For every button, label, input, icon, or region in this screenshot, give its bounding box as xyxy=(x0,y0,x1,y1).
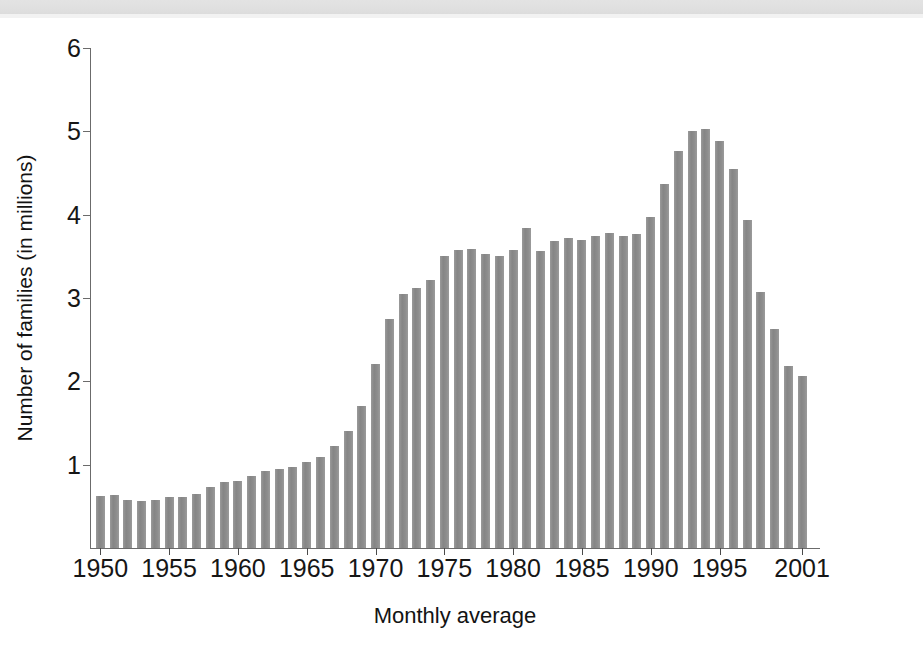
x-tick-label-1955: 1955 xyxy=(141,556,197,581)
bar-1982 xyxy=(536,251,545,549)
bar-1986 xyxy=(591,236,600,549)
bar-1968 xyxy=(344,431,353,549)
bar-1979 xyxy=(495,256,504,548)
bar-1973 xyxy=(412,288,421,548)
y-tick-mark xyxy=(83,465,90,466)
bar-1995 xyxy=(715,141,724,548)
x-tick-label-1980: 1980 xyxy=(485,556,541,581)
bar-1997 xyxy=(743,220,752,548)
y-axis-title: Number of families (in millions) xyxy=(13,154,37,441)
bar-1976 xyxy=(454,250,463,548)
y-tick-mark xyxy=(83,381,90,382)
x-tick-label-1950: 1950 xyxy=(73,556,129,581)
bar-1971 xyxy=(385,319,394,548)
bar-1998 xyxy=(756,292,765,548)
y-tick-label: 1 xyxy=(67,452,81,477)
bar-1990 xyxy=(646,217,655,548)
y-tick-mark xyxy=(83,215,90,216)
y-tick-label: 6 xyxy=(67,36,81,61)
bar-1994 xyxy=(701,129,710,548)
bar-1996 xyxy=(729,169,738,548)
bar-1972 xyxy=(399,294,408,548)
y-tick-label: 2 xyxy=(67,369,81,394)
bar-1950 xyxy=(96,496,105,549)
bar-1975 xyxy=(440,256,449,548)
x-tick-label-1965: 1965 xyxy=(279,556,335,581)
bar-1992 xyxy=(674,151,683,549)
bar-1959 xyxy=(220,482,229,548)
y-tick-label: 3 xyxy=(67,286,81,311)
y-tick-mark xyxy=(83,298,90,299)
bar-1981 xyxy=(522,228,531,548)
x-axis-title: Monthly average xyxy=(90,603,820,629)
bar-1989 xyxy=(632,234,641,548)
bar-1956 xyxy=(178,497,187,548)
x-tick-label-1985: 1985 xyxy=(554,556,610,581)
bar-1987 xyxy=(605,233,614,548)
bar-1985 xyxy=(577,240,586,548)
bar-2000 xyxy=(784,366,793,549)
x-axis-line xyxy=(90,548,820,549)
bar-1999 xyxy=(770,329,779,548)
bar-1967 xyxy=(330,446,339,548)
x-tick-label-1990: 1990 xyxy=(623,556,679,581)
bar-1984 xyxy=(564,238,573,548)
bar-1965 xyxy=(302,462,311,548)
bar-1974 xyxy=(426,280,435,548)
bar-1953 xyxy=(137,501,146,548)
x-tick-label-1960: 1960 xyxy=(210,556,266,581)
bar-1962 xyxy=(261,471,270,548)
y-tick-label: 5 xyxy=(67,119,81,144)
y-tick-mark xyxy=(83,48,90,49)
x-tick-label-2001: 2001 xyxy=(774,556,830,581)
bar-1960 xyxy=(233,481,242,548)
bar-1977 xyxy=(467,249,476,548)
bar-1983 xyxy=(550,241,559,549)
plot-area: 123456 xyxy=(90,48,820,548)
bar-1958 xyxy=(206,487,215,548)
bar-1969 xyxy=(357,406,366,548)
y-axis-title-holder: Number of families (in millions) xyxy=(10,48,40,548)
bar-1952 xyxy=(123,500,132,548)
x-tick-label-1995: 1995 xyxy=(692,556,748,581)
bar-1951 xyxy=(110,495,119,548)
bar-1970 xyxy=(371,364,380,548)
bar-1991 xyxy=(660,184,669,548)
bar-1978 xyxy=(481,254,490,548)
bar-1980 xyxy=(509,250,518,548)
bar-1954 xyxy=(151,500,160,548)
x-tick-label-1970: 1970 xyxy=(348,556,404,581)
y-tick-label: 4 xyxy=(67,202,81,227)
bar-2001 xyxy=(798,376,807,549)
bar-1988 xyxy=(619,236,628,549)
bar-chart-figure: Number of families (in millions) 123456 … xyxy=(0,0,923,663)
bar-1955 xyxy=(165,497,174,548)
x-tick-label-1975: 1975 xyxy=(417,556,473,581)
bar-1957 xyxy=(192,494,201,548)
bar-1966 xyxy=(316,457,325,548)
y-tick-mark xyxy=(83,131,90,132)
bar-1961 xyxy=(247,476,256,549)
bar-1993 xyxy=(688,131,697,548)
bar-1963 xyxy=(275,469,284,548)
bar-1964 xyxy=(288,467,297,548)
